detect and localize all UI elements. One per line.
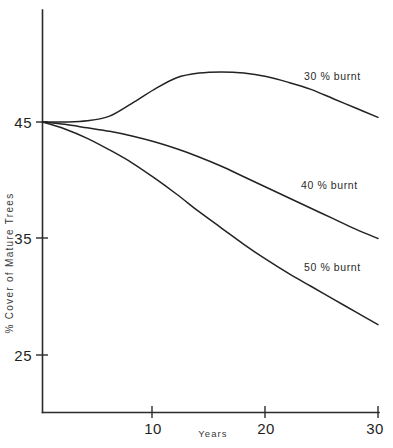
x-tick-label-20: 20 [257,420,275,437]
series-label-30-burnt: 30 % burnt [304,70,361,82]
curve-50-percent-burnt [43,122,379,325]
chart-figure: 45 35 25 10 20 30 Years % Cover of Matur… [0,0,393,448]
series-label-40-burnt: 40 % burnt [301,179,358,191]
x-tick-label-10: 10 [144,420,162,437]
series-label-50-burnt: 50 % burnt [304,261,361,273]
x-axis-title: Years [198,428,227,439]
x-tick-label-30: 30 [366,420,384,437]
y-tick-label-35: 35 [14,230,32,247]
line-chart-canvas: 45 35 25 10 20 30 Years % Cover of Matur… [0,0,393,448]
y-tick-label-45: 45 [14,114,32,131]
y-axis-title: % Cover of Mature Trees [4,192,15,333]
y-tick-label-25: 25 [14,347,32,364]
